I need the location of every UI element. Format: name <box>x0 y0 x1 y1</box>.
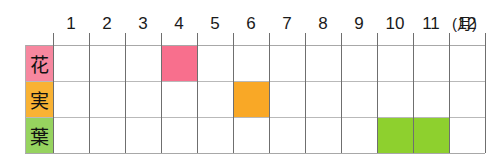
gridline-v-12 <box>485 33 486 153</box>
axis-unit-label: (月) <box>452 12 477 36</box>
month-label-3: 3 <box>125 12 161 36</box>
bar-leaf-october-november <box>377 117 449 153</box>
gridline-h-3 <box>25 153 485 154</box>
bar-row-leaf <box>53 117 485 153</box>
bar-fruit-june <box>233 81 269 117</box>
row-label-fruit: 実 <box>25 81 53 117</box>
label-column-divider <box>25 45 26 153</box>
chart-plot-area <box>53 45 485 153</box>
month-axis-header: 1 2 3 4 5 6 7 8 9 10 11 12 <box>53 12 485 36</box>
month-label-4: 4 <box>161 12 197 36</box>
month-label-7: 7 <box>269 12 305 36</box>
month-label-11: 11 <box>413 12 449 36</box>
chart-grid-body: 花 実 葉 <box>25 45 485 153</box>
month-label-1: 1 <box>53 12 89 36</box>
month-label-2: 2 <box>89 12 125 36</box>
row-label-leaf: 葉 <box>25 117 53 153</box>
bar-row-flower <box>53 45 485 81</box>
seasonal-calendar-chart: 1 2 3 4 5 6 7 8 9 10 11 12 (月) 花 実 葉 <box>0 0 496 165</box>
bar-row-fruit <box>53 81 485 117</box>
row-label-flower: 花 <box>25 45 53 81</box>
row-label-column: 花 実 葉 <box>25 45 53 153</box>
month-label-10: 10 <box>377 12 413 36</box>
month-label-5: 5 <box>197 12 233 36</box>
bar-flower-april <box>161 45 197 81</box>
month-label-9: 9 <box>341 12 377 36</box>
month-label-6: 6 <box>233 12 269 36</box>
month-label-8: 8 <box>305 12 341 36</box>
